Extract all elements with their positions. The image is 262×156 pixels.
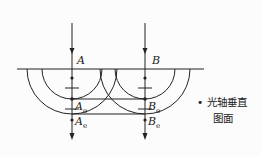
label-a-e: Ae bbox=[75, 116, 87, 130]
optic-axis-note-line2: 图面 bbox=[213, 113, 233, 124]
label-b-e: Be bbox=[148, 116, 160, 130]
arrow-a-top bbox=[70, 48, 75, 54]
optic-axis-note-line1: • 光轴垂直 bbox=[197, 97, 247, 108]
label-b: B bbox=[152, 55, 160, 66]
label-a: A bbox=[77, 55, 85, 66]
optic-axis-dot-icon: • bbox=[197, 96, 203, 108]
label-a-o: Ao bbox=[75, 101, 87, 115]
diagram-canvas bbox=[0, 0, 262, 156]
label-b-o: Bo bbox=[148, 101, 160, 115]
arrow-b-bottom bbox=[143, 133, 148, 140]
arrow-b-top bbox=[143, 48, 148, 54]
arrow-a-bottom bbox=[70, 133, 75, 140]
